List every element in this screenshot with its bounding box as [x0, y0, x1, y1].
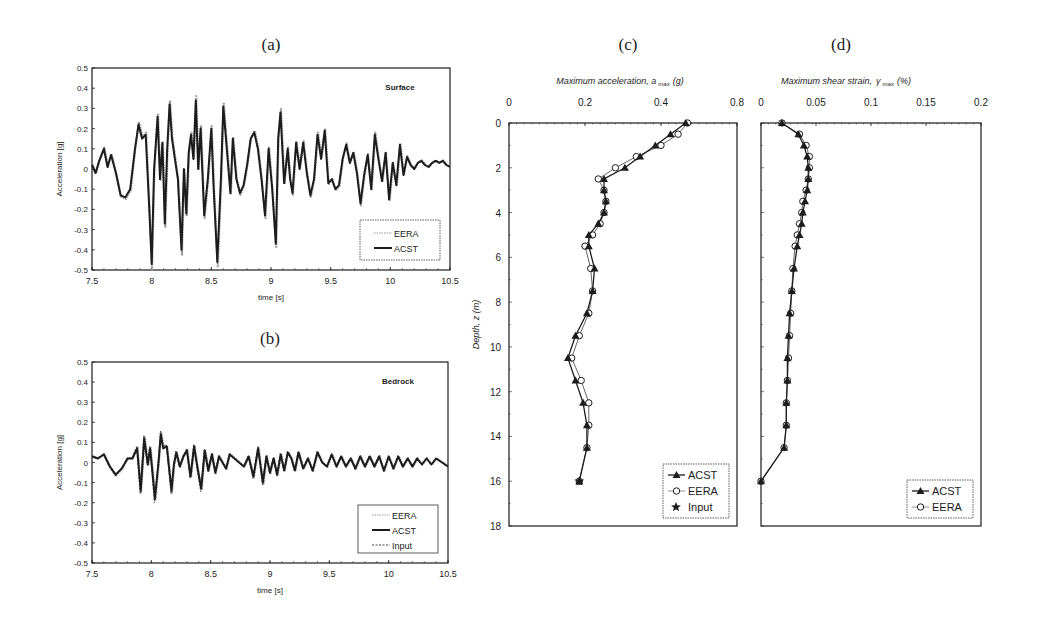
y-tick-label: 0.3 [77, 398, 89, 407]
x-tick-label: 0.2 [578, 97, 592, 108]
y-tick-label: -0.3 [74, 519, 88, 528]
y-tick-label: 10 [490, 342, 502, 353]
x-axis-title-unit: (%) [897, 76, 911, 86]
y-tick-label: 16 [490, 476, 502, 487]
y-tick-label: -0.1 [74, 479, 88, 488]
y-tick-label: 0.4 [77, 84, 89, 93]
circle-marker [612, 165, 618, 171]
x-tick-label: 7.5 [86, 276, 99, 286]
y-tick-label: 0.3 [77, 104, 89, 113]
x-tick-label: 10 [384, 569, 394, 579]
x-tick-label: 0.2 [974, 97, 988, 108]
x-tick-label: 0.05 [806, 97, 826, 108]
circle-marker [673, 488, 679, 494]
panel-label: (b) [260, 329, 280, 348]
x-tick-label: 10 [385, 276, 395, 286]
y-tick-label: 0.1 [77, 145, 89, 154]
legend-label-eera: EERA [392, 511, 417, 521]
x-axis-title-subscript: max [883, 81, 895, 87]
y-tick-label: -0.4 [74, 246, 88, 255]
y-tick-label: 0.1 [77, 438, 89, 447]
y-tick-label: 18 [490, 521, 502, 532]
circle-marker [675, 131, 681, 137]
triangle-marker [621, 164, 629, 171]
y-tick-label: 0 [84, 165, 89, 174]
legend-box [360, 220, 440, 260]
y-tick-label: 2 [495, 163, 501, 174]
panel-label: (a) [262, 35, 281, 54]
legend-label-input: Input [392, 541, 413, 551]
x-tick-label: 8.5 [205, 276, 218, 286]
panel-c: (c)Maximum acceleration, amax(g)00.20.40… [471, 35, 744, 532]
legend-label-acst: ACST [688, 469, 718, 481]
y-tick-label: 0.2 [77, 125, 89, 134]
x-tick-label: 0 [758, 97, 764, 108]
figure: (a)0.50.40.30.20.10-0.1-0.2-0.3-0.4-0.57… [0, 0, 1037, 629]
y-tick-label: 4 [495, 208, 501, 219]
x-tick-label: 0.4 [654, 97, 668, 108]
x-tick-label: 9.5 [323, 569, 336, 579]
x-axis-label: time [s] [258, 293, 284, 302]
x-tick-label: 0.8 [730, 97, 744, 108]
legend-label-input: Input [688, 501, 712, 513]
triangle-marker [667, 130, 675, 137]
panel-a: (a)0.50.40.30.20.10-0.1-0.2-0.3-0.4-0.57… [55, 35, 459, 302]
x-axis-title-main: Maximum shear strain, [781, 76, 872, 86]
x-tick-label: 9.5 [324, 276, 337, 286]
panel-b: (b)0.50.40.30.20.10-0.1-0.2-0.3-0.4-0.57… [55, 329, 457, 595]
panel-d: (d)Maximum shear strain,γmax(%)00.050.10… [757, 35, 988, 526]
x-axis-title-symbol: γ [876, 76, 881, 86]
y-axis-label: Acceleration [g] [55, 141, 64, 196]
legend-label-acst: ACST [392, 526, 417, 536]
x-tick-label: 0.15 [916, 97, 936, 108]
y-tick-label: 0 [495, 118, 501, 129]
legend-label-acst: ACST [932, 485, 962, 497]
x-tick-label: 8 [149, 569, 154, 579]
x-tick-label: 10.5 [439, 569, 457, 579]
legend-label-eera: EERA [688, 485, 719, 497]
annotation-label: Surface [385, 83, 415, 92]
x-tick-label: 0 [506, 97, 512, 108]
y-tick-label: 12 [490, 387, 502, 398]
x-tick-label: 7.5 [86, 569, 99, 579]
y-tick-label: 0.5 [77, 358, 89, 367]
legend-label-acst: ACST [394, 244, 419, 254]
y-tick-label: 0 [84, 459, 89, 468]
y-tick-label: -0.5 [74, 266, 88, 275]
y-axis-label: Acceleration [g] [55, 435, 64, 490]
x-tick-label: 9 [268, 276, 273, 286]
x-tick-label: 8 [149, 276, 154, 286]
y-tick-label: 0.2 [77, 418, 89, 427]
x-tick-label: 0.1 [864, 97, 878, 108]
y-tick-label: 0.5 [77, 64, 89, 73]
y-tick-label: -0.2 [74, 205, 88, 214]
y-tick-label: 14 [490, 431, 502, 442]
y-tick-label: -0.3 [74, 226, 88, 235]
y-tick-label: -0.2 [74, 499, 88, 508]
legend-label-eera: EERA [932, 501, 963, 513]
panel-label: (d) [831, 35, 851, 54]
y-tick-label: 8 [495, 297, 501, 308]
x-axis-label: time [s] [257, 586, 283, 595]
x-axis-title: Maximum acceleration, amax(g) [556, 76, 683, 87]
x-axis-title-subscript: max [658, 81, 670, 87]
panel-label: (c) [619, 35, 638, 54]
x-axis-title-unit: (g) [673, 76, 684, 86]
x-tick-label: 9 [267, 569, 272, 579]
x-tick-label: 8.5 [204, 569, 217, 579]
plot-frame [761, 123, 981, 526]
legend-label-eera: EERA [394, 229, 419, 239]
y-tick-label: 6 [495, 252, 501, 263]
x-axis-title-main: Maximum acceleration, a [556, 76, 656, 86]
x-tick-label: 10.5 [441, 276, 459, 286]
y-axis-label: Depth, z (m) [471, 300, 481, 350]
y-tick-label: -0.5 [74, 559, 88, 568]
circle-marker [917, 504, 923, 510]
y-tick-label: 0.4 [77, 378, 89, 387]
annotation-label: Bedrock [382, 377, 415, 386]
x-axis-title: Maximum shear strain,γmax(%) [781, 76, 911, 87]
y-tick-label: -0.1 [74, 185, 88, 194]
y-tick-label: -0.4 [74, 539, 88, 548]
